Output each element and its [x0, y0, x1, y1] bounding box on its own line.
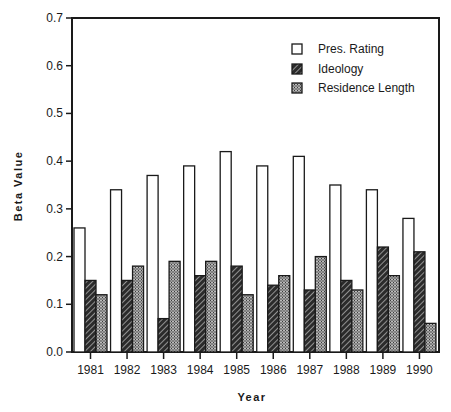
y-tick-label: 0.1	[46, 297, 63, 311]
bar-group-1990	[403, 218, 436, 352]
bar-ideology	[158, 319, 169, 352]
x-tick-label: 1988	[333, 363, 360, 377]
legend-item-ideology: Ideology	[292, 62, 363, 76]
bar-ideology	[377, 247, 388, 352]
bar-ideology	[195, 276, 206, 352]
bar-residence-length	[279, 276, 290, 352]
bar-residence-length	[425, 323, 436, 352]
bar-chart: 0.00.10.20.30.40.50.60.7 198119821983198…	[0, 0, 451, 412]
y-tick-label: 0.3	[46, 202, 63, 216]
legend-label: Ideology	[318, 62, 363, 76]
bar-pres-rating	[293, 156, 304, 352]
y-tick-label: 0.5	[46, 106, 63, 120]
x-tick-label: 1990	[406, 363, 433, 377]
bar-ideology	[304, 290, 315, 352]
bar-residence-length	[315, 257, 326, 352]
x-axis: 1981198219831984198519861987198819891990	[77, 352, 433, 377]
bar-residence-length	[388, 276, 399, 352]
y-tick-label: 0.0	[46, 345, 63, 359]
bar-group-1989	[366, 190, 399, 352]
legend-item-residence-length: Residence Length	[292, 81, 415, 95]
bar-group-1986	[257, 166, 290, 352]
bar-ideology	[341, 280, 352, 352]
bar-pres-rating	[74, 228, 85, 352]
bar-ideology	[414, 252, 425, 352]
bar-group-1984	[184, 166, 217, 352]
bar-group-1985	[220, 152, 253, 352]
bar-residence-length	[169, 261, 180, 352]
legend-swatch	[292, 83, 302, 93]
bar-residence-length	[206, 261, 217, 352]
bar-pres-rating	[184, 166, 195, 352]
x-axis-title: Year	[237, 391, 266, 403]
bar-pres-rating	[403, 218, 414, 352]
legend-item-pres-rating: Pres. Rating	[292, 42, 384, 56]
x-tick-label: 1989	[370, 363, 397, 377]
legend-label: Pres. Rating	[318, 42, 384, 56]
bar-group-1987	[293, 156, 326, 352]
bar-pres-rating	[330, 185, 341, 352]
y-tick-label: 0.6	[46, 59, 63, 73]
bar-ideology	[268, 285, 279, 352]
bar-pres-rating	[366, 190, 377, 352]
bar-residence-length	[352, 290, 363, 352]
bar-residence-length	[133, 266, 144, 352]
bar-group-1988	[330, 185, 363, 352]
y-tick-label: 0.2	[46, 250, 63, 264]
x-tick-label: 1983	[150, 363, 177, 377]
x-tick-label: 1984	[187, 363, 214, 377]
bar-pres-rating	[147, 175, 158, 352]
x-tick-label: 1986	[260, 363, 287, 377]
x-tick-label: 1982	[114, 363, 141, 377]
x-tick-label: 1985	[223, 363, 250, 377]
bar-group-1983	[147, 175, 180, 352]
bar-group-1982	[111, 190, 144, 352]
x-tick-label: 1987	[296, 363, 323, 377]
bar-series	[74, 152, 436, 352]
x-tick-label: 1981	[77, 363, 104, 377]
legend-label: Residence Length	[318, 81, 415, 95]
bar-pres-rating	[257, 166, 268, 352]
bar-residence-length	[242, 295, 253, 352]
bar-ideology	[85, 280, 96, 352]
bar-pres-rating	[220, 152, 231, 352]
bar-group-1981	[74, 228, 107, 352]
y-tick-label: 0.4	[46, 154, 63, 168]
bar-ideology	[231, 266, 242, 352]
y-tick-label: 0.7	[46, 11, 63, 25]
y-axis: 0.00.10.20.30.40.50.60.7	[46, 11, 72, 359]
legend-swatch	[292, 44, 302, 54]
bar-pres-rating	[111, 190, 122, 352]
y-axis-title: Beta Value	[12, 151, 24, 222]
legend: Pres. RatingIdeologyResidence Length	[292, 42, 415, 95]
bar-residence-length	[96, 295, 107, 352]
legend-swatch	[292, 64, 302, 74]
bar-ideology	[122, 280, 133, 352]
